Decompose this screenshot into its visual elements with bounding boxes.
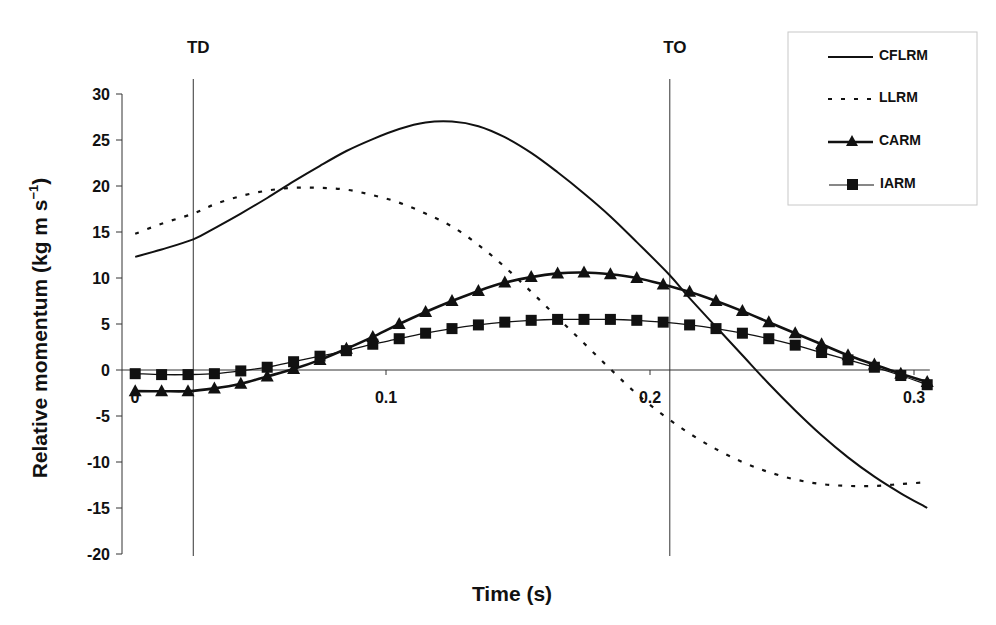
- square-marker-icon: [526, 315, 537, 326]
- square-marker-icon: [156, 369, 167, 380]
- square-marker-icon: [658, 317, 669, 328]
- y-tick-label: 30: [92, 86, 110, 103]
- y-tick-label: -5: [96, 408, 110, 425]
- square-marker-icon: [262, 362, 273, 373]
- y-tick-label: 25: [92, 132, 110, 149]
- square-marker-icon: [209, 368, 220, 379]
- square-marker-icon: [552, 314, 563, 325]
- iarm-line: [135, 319, 927, 384]
- square-marker-icon: [367, 339, 378, 350]
- y-tick-label: 10: [92, 270, 110, 287]
- svg-text:LLRM: LLRM: [879, 89, 918, 105]
- series-iarm: [130, 314, 933, 390]
- square-marker-icon: [605, 314, 616, 325]
- y-tick-label: -15: [87, 500, 110, 517]
- square-marker-icon: [684, 319, 695, 330]
- x-tick-label: 0.3: [903, 389, 925, 406]
- square-marker-icon: [499, 317, 510, 328]
- square-marker-icon: [315, 351, 326, 362]
- square-marker-icon: [922, 379, 933, 390]
- square-marker-icon: [420, 328, 431, 339]
- square-marker-icon: [847, 179, 858, 190]
- square-marker-icon: [341, 345, 352, 356]
- y-tick-label: 0: [101, 362, 110, 379]
- y-axis: 302520151050-5-10-15-20: [87, 86, 122, 563]
- square-marker-icon: [737, 328, 748, 339]
- x-axis-title: Time (s): [472, 582, 552, 605]
- llrm-line: [135, 188, 927, 487]
- square-marker-icon: [183, 369, 194, 380]
- y-tick-label: 15: [92, 224, 110, 241]
- event-lines: TDTO: [187, 38, 687, 556]
- square-marker-icon: [711, 323, 722, 334]
- svg-text:Relative momentum (kg m s−1): Relative momentum (kg m s−1): [26, 178, 51, 479]
- series-llrm: [135, 188, 927, 487]
- y-axis-title-close: ): [28, 178, 51, 185]
- square-marker-icon: [869, 362, 880, 373]
- square-marker-icon: [394, 333, 405, 344]
- y-tick-label: 20: [92, 178, 110, 195]
- to-label: TO: [663, 38, 686, 57]
- square-marker-icon: [816, 347, 827, 358]
- y-axis-title: Relative momentum (kg m s−1): [26, 178, 51, 479]
- y-tick-label: 5: [101, 316, 110, 333]
- square-marker-icon: [288, 356, 299, 367]
- square-marker-icon: [843, 354, 854, 365]
- square-marker-icon: [473, 319, 484, 330]
- svg-text:IARM: IARM: [880, 175, 916, 191]
- y-axis-title-main: Relative momentum (kg m s: [28, 199, 51, 478]
- td-label: TD: [187, 38, 210, 57]
- series-carm: [129, 265, 934, 396]
- square-marker-icon: [763, 333, 774, 344]
- momentum-chart: 302520151050-5-10-15-20 00.10.20.3 TDTO …: [0, 0, 996, 625]
- svg-text:CARM: CARM: [879, 132, 921, 148]
- square-marker-icon: [895, 370, 906, 381]
- svg-text:CFLRM: CFLRM: [879, 47, 928, 63]
- y-tick-label: -20: [87, 546, 110, 563]
- x-tick-label: 0.1: [375, 389, 397, 406]
- legend: CFLRM LLRM CARM IARM: [788, 32, 977, 205]
- y-tick-label: -10: [87, 454, 110, 471]
- square-marker-icon: [447, 323, 458, 334]
- square-marker-icon: [790, 340, 801, 351]
- square-marker-icon: [579, 314, 590, 325]
- y-axis-title-sup: −1: [26, 185, 41, 200]
- square-marker-icon: [631, 315, 642, 326]
- square-marker-icon: [235, 365, 246, 376]
- square-marker-icon: [130, 368, 141, 379]
